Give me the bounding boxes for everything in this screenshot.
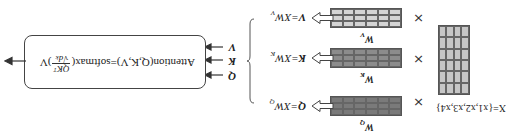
formula-suffix: )V: [40, 58, 52, 70]
matrix-cell: [366, 9, 378, 15]
equation-q: Q=XWQ: [270, 98, 306, 113]
matrix-cell: [378, 9, 390, 15]
attention-input-v: V: [229, 42, 236, 54]
matrix-cell: [343, 21, 355, 27]
matrix-cell: [343, 109, 355, 115]
matrix-cell: [389, 61, 401, 67]
matrix-cell: [454, 71, 462, 82]
times-symbol-k: ×: [413, 52, 424, 67]
input-matrix-x: [438, 25, 470, 95]
matrix-cell: [366, 15, 378, 21]
matrix-cell: [378, 109, 390, 115]
matrix-cell: [378, 49, 390, 55]
matrix-cell: [354, 55, 366, 61]
matrix-cell: [439, 60, 447, 71]
equation-k: K=XWK: [271, 50, 306, 65]
weight-label-v: WV: [360, 31, 374, 45]
matrix-cell: [462, 71, 470, 82]
weight-label-k: WK: [360, 71, 374, 85]
matrix-cell: [439, 26, 447, 37]
times-symbol-q: ×: [413, 95, 424, 110]
matrix-cell: [378, 103, 390, 109]
matrix-cell: [447, 71, 455, 82]
formula-prefix: Attention(Q,K,V)=softmax(: [71, 58, 195, 70]
matrix-cell: [447, 60, 455, 71]
matrix-cell: [389, 49, 401, 55]
attention-formula: Attention(Q,K,V)=softmax( QKᵀ √dₖ )V: [40, 54, 195, 73]
matrix-cell: [343, 97, 355, 103]
attention-diagram: X={x1,x2,x3,x4} × × × WQ WK WV Q=XWQ K=X…: [0, 0, 506, 134]
matrix-cell: [343, 103, 355, 109]
matrix-cell: [343, 15, 355, 21]
matrix-cell: [378, 61, 390, 67]
matrix-cell: [354, 49, 366, 55]
matrix-cell: [462, 49, 470, 60]
matrix-cell: [354, 61, 366, 67]
formula-fraction: QKᵀ √dₖ: [53, 54, 71, 73]
matrix-cell: [354, 97, 366, 103]
formula-denominator: √dₖ: [55, 54, 68, 63]
input-arrows-icon: [204, 40, 224, 80]
matrix-cell: [454, 83, 462, 94]
matrix-cell: [354, 103, 366, 109]
hollow-arrow-q-icon: [310, 100, 334, 112]
matrix-cell: [389, 97, 401, 103]
matrix-cell: [439, 49, 447, 60]
weight-matrix-k: [330, 48, 402, 68]
matrix-cell: [462, 83, 470, 94]
matrix-cell: [366, 21, 378, 27]
hollow-arrow-k-icon: [310, 52, 334, 64]
matrix-cell: [354, 15, 366, 21]
weight-label-q: WQ: [360, 119, 374, 133]
output-arrow-icon: [4, 56, 26, 66]
formula-numerator: QKᵀ: [53, 63, 71, 73]
matrix-cell: [439, 71, 447, 82]
matrix-cell: [354, 109, 366, 115]
matrix-cell: [366, 103, 378, 109]
brace-icon: [246, 18, 256, 104]
hollow-arrow-v-icon: [310, 12, 334, 24]
matrix-cell: [366, 49, 378, 55]
matrix-cell: [366, 55, 378, 61]
matrix-cell: [354, 9, 366, 15]
matrix-cell: [378, 97, 390, 103]
matrix-cell: [366, 61, 378, 67]
equation-v: V=XWV: [271, 9, 306, 24]
times-symbol-v: ×: [413, 11, 424, 26]
matrix-cell: [439, 37, 447, 48]
matrix-cell: [447, 49, 455, 60]
matrix-cell: [454, 37, 462, 48]
matrix-cell: [462, 37, 470, 48]
attention-input-k: K: [229, 56, 236, 68]
matrix-cell: [447, 83, 455, 94]
matrix-cell: [389, 109, 401, 115]
matrix-cell: [389, 9, 401, 15]
attention-input-q: Q: [228, 71, 236, 83]
input-set-label: X={x1,x2,x3,x4}: [436, 103, 506, 114]
matrix-cell: [462, 60, 470, 71]
matrix-cell: [454, 60, 462, 71]
matrix-cell: [439, 83, 447, 94]
attention-box: Attention(Q,K,V)=softmax( QKᵀ √dₖ )V: [24, 35, 206, 89]
matrix-cell: [389, 15, 401, 21]
matrix-cell: [354, 21, 366, 27]
matrix-cell: [447, 26, 455, 37]
matrix-cell: [462, 26, 470, 37]
matrix-cell: [454, 26, 462, 37]
matrix-cell: [366, 97, 378, 103]
matrix-cell: [389, 55, 401, 61]
matrix-cell: [378, 21, 390, 27]
matrix-cell: [389, 103, 401, 109]
matrix-cell: [366, 109, 378, 115]
matrix-cell: [343, 9, 355, 15]
matrix-cell: [343, 61, 355, 67]
weight-matrix-q: [330, 96, 402, 116]
matrix-cell: [454, 49, 462, 60]
weight-matrix-v: [330, 8, 402, 28]
matrix-cell: [447, 37, 455, 48]
matrix-cell: [343, 49, 355, 55]
matrix-cell: [378, 15, 390, 21]
matrix-cell: [343, 55, 355, 61]
matrix-cell: [389, 21, 401, 27]
matrix-cell: [378, 55, 390, 61]
